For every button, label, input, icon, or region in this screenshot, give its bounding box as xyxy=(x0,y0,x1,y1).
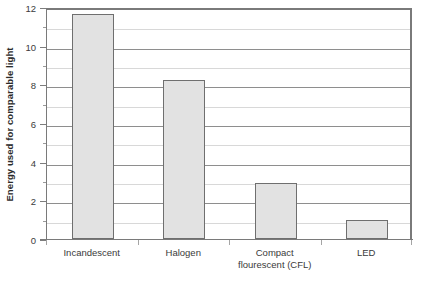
y-axis-tick-label: 4 xyxy=(31,157,36,168)
y-axis-tick-label: 0 xyxy=(31,235,36,246)
plot-area xyxy=(46,8,412,240)
x-axis-tick-mark xyxy=(411,240,412,245)
x-axis-tick-label: Halogen xyxy=(138,247,230,259)
y-axis-tick-label: 10 xyxy=(25,41,36,52)
y-axis-title: Energy used for comparable light xyxy=(0,0,18,248)
y-axis-tick-label: 8 xyxy=(31,80,36,91)
x-axis-tick-label: Incandescent xyxy=(46,247,138,259)
bars-layer xyxy=(47,10,410,239)
x-axis-tick-mark xyxy=(321,240,322,245)
bar xyxy=(163,80,205,240)
bar xyxy=(255,183,297,239)
bar xyxy=(346,220,388,239)
x-axis-tick-labels: IncandescentHalogenCompact flourescent (… xyxy=(46,247,412,286)
x-axis-tick-mark xyxy=(138,240,139,245)
x-axis-tick-mark xyxy=(46,240,47,245)
y-axis-tick-label: 12 xyxy=(25,3,36,14)
x-axis-tick-mark xyxy=(229,240,230,245)
bar xyxy=(72,14,114,239)
y-axis-title-text: Energy used for comparable light xyxy=(4,47,15,201)
y-axis-tick-label: 2 xyxy=(31,196,36,207)
y-axis-tick-label: 6 xyxy=(31,119,36,130)
x-axis-tick-label: LED xyxy=(321,247,413,259)
x-axis-tick-label: Compact flourescent (CFL) xyxy=(229,247,321,271)
y-axis-tick-labels: 024681012 xyxy=(18,0,40,248)
bar-chart: Energy used for comparable light 0246810… xyxy=(0,0,425,286)
x-axis-tick-marks xyxy=(46,240,412,245)
